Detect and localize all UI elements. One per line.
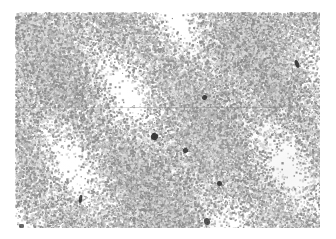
- micrograph-image: [15, 12, 320, 228]
- grain-texture-canvas: [15, 12, 320, 228]
- figure-root: [0, 0, 336, 239]
